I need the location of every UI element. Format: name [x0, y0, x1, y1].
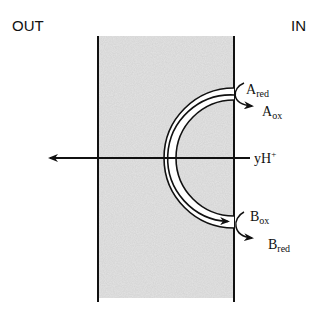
membrane-diagram: OUT IN Ared Aox yH+ Box Bred — [0, 0, 315, 319]
b-red-label: Bred — [268, 237, 290, 254]
b-ox-label: Box — [250, 209, 269, 226]
in-label: IN — [291, 17, 306, 34]
a-red-label: Ared — [246, 82, 269, 99]
a-ox-label: Aox — [262, 104, 282, 121]
proton-label: yH+ — [254, 149, 276, 166]
out-label: OUT — [12, 17, 44, 34]
